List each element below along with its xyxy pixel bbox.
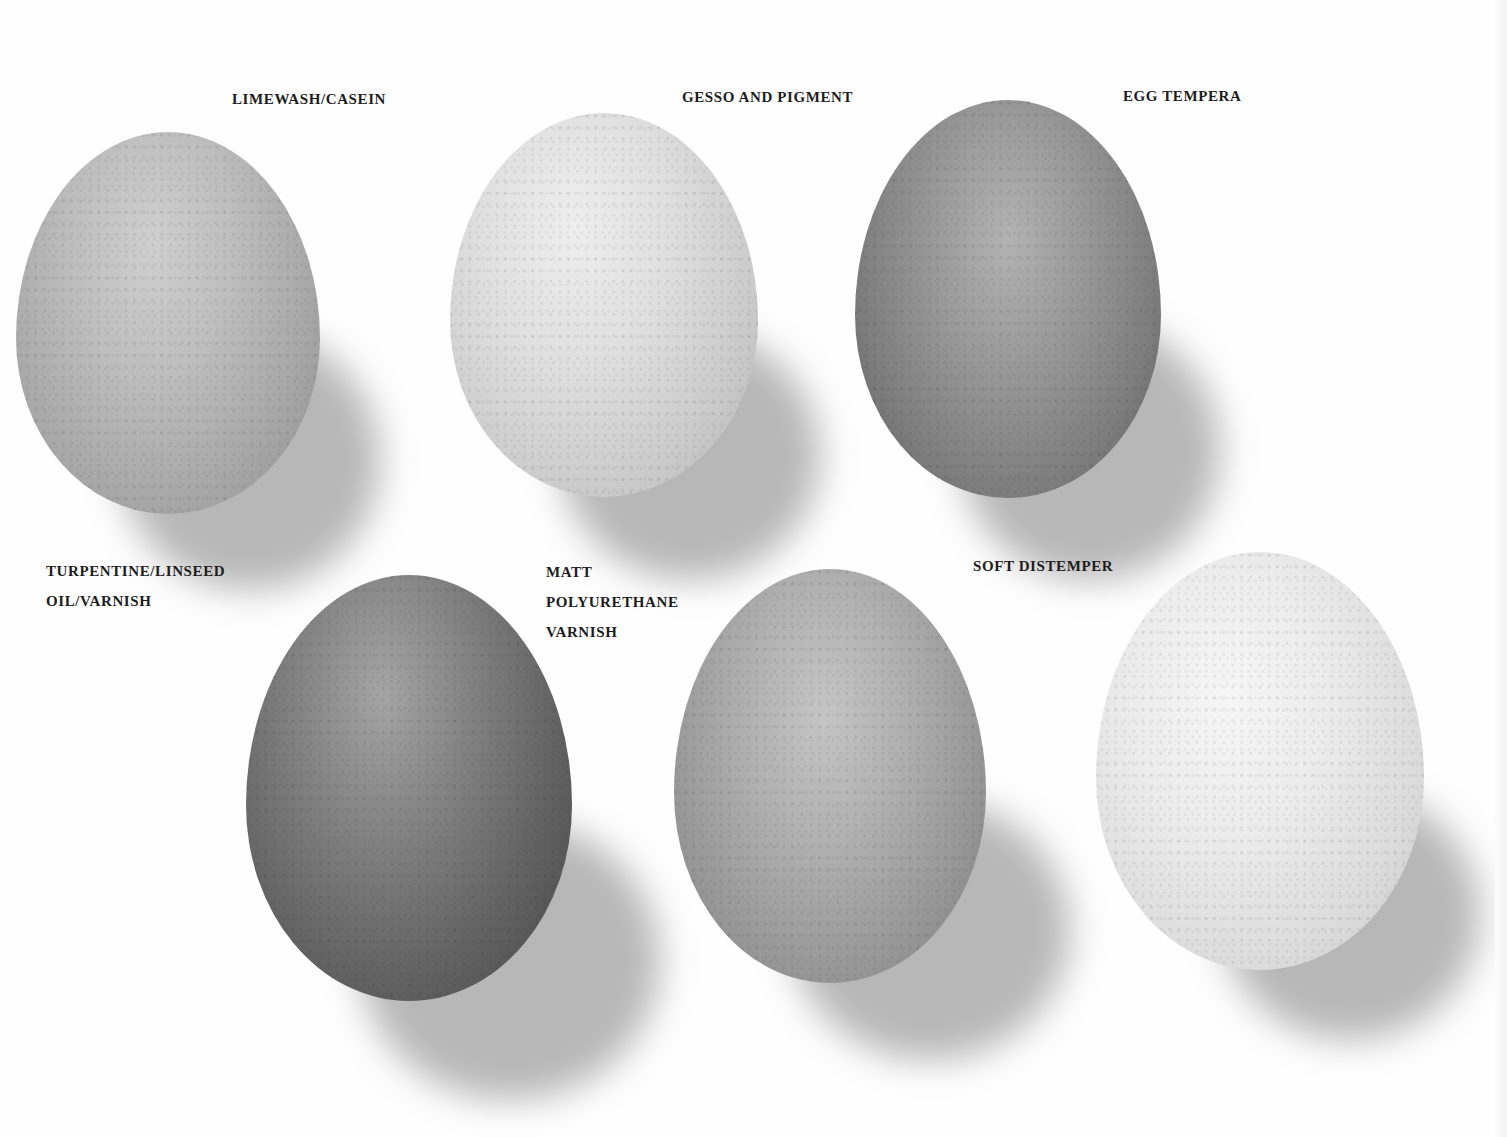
egg-photo-turpentine bbox=[246, 575, 572, 1001]
egg-photo-egg-tempera bbox=[855, 100, 1161, 498]
egg-photo-gesso bbox=[450, 113, 758, 497]
egg-photo-matt-polyurethane bbox=[674, 569, 986, 983]
book-page: LIMEWASH/CASEIN GESSO AND PIGMENT EGG TE… bbox=[0, 0, 1507, 1137]
egg-photo-limewash bbox=[16, 132, 320, 514]
caption-gesso-and-pigment: GESSO AND PIGMENT bbox=[682, 82, 853, 112]
caption-turpentine-linseed-oil-varnish: TURPENTINE/LINSEED OIL/VARNISH bbox=[46, 556, 225, 616]
egg-photo-soft-distemper bbox=[1096, 552, 1424, 970]
caption-limewash-casein: LIMEWASH/CASEIN bbox=[232, 84, 386, 114]
caption-matt-polyurethane-varnish: MATT POLYURETHANE VARNISH bbox=[546, 557, 679, 647]
caption-soft-distemper: SOFT DISTEMPER bbox=[973, 551, 1113, 581]
page-edge bbox=[1495, 0, 1507, 1137]
caption-egg-tempera: EGG TEMPERA bbox=[1123, 81, 1241, 111]
